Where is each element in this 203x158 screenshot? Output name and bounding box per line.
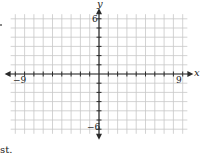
x-min-label: −9 [13,76,26,85]
y-axis-label: y [97,0,103,9]
y-min-label: −6 [87,123,100,132]
stray-dot [0,24,2,26]
x-max-label: 9 [176,76,182,85]
x-axis-label: x [194,68,200,78]
fragment-text: st. [0,145,12,155]
coordinate-plane [0,0,203,158]
y-max-label: 6 [92,15,98,24]
